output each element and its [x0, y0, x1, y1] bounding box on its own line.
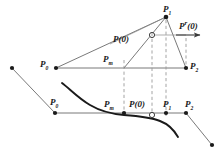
- label-upper-p1: P1: [163, 5, 171, 16]
- lower-point-pminus1: [10, 66, 14, 70]
- label-upper-p2: P2: [190, 62, 198, 73]
- label-upper-p-of-0: P(0): [113, 35, 129, 44]
- label-lower-p1: P1: [163, 100, 171, 111]
- label-upper-p-of-0-suffix: (0): [119, 34, 130, 44]
- label-tangent-suffix: (0): [187, 21, 198, 31]
- lower-point-p-of-0: [149, 112, 154, 117]
- lower-point-p1: [164, 111, 168, 115]
- label-lower-pm: Pm: [104, 100, 114, 111]
- upper-point-p0: [54, 66, 58, 70]
- lower-point-p0: [53, 111, 57, 115]
- label-upper-p0: P0: [40, 60, 48, 71]
- label-upper-p0-sub: 0: [46, 65, 49, 71]
- lower-point-p2: [184, 111, 188, 115]
- spline-curve: [62, 83, 178, 137]
- lower-point-p3: [210, 143, 214, 147]
- label-lower-p2: P2: [185, 100, 193, 111]
- lower-edge-p2-p3: [186, 113, 212, 145]
- label-lower-pm-sub: m: [110, 105, 114, 111]
- label-lower-p2-sub: 2: [191, 105, 194, 111]
- label-lower-p0-sub: 0: [56, 103, 59, 109]
- label-lower-p-of-0: P(0): [129, 100, 145, 109]
- label-upper-p1-sub: 1: [169, 10, 172, 16]
- label-lower-p-of-0-suffix: (0): [135, 99, 146, 109]
- upper-point-p2: [184, 66, 188, 70]
- upper-edge-pm-p1: [124, 17, 166, 68]
- label-upper-pm-sub: m: [109, 60, 113, 66]
- label-lower-p1-sub: 1: [169, 105, 172, 111]
- label-upper-p2-sub: 2: [196, 67, 199, 73]
- label-tangent-vector: Pr(0): [179, 20, 198, 31]
- lower-edge-pminus1-p0: [12, 68, 55, 113]
- label-upper-pm: Pm: [103, 55, 113, 66]
- label-lower-p0: P0: [50, 98, 58, 109]
- figure-container: P0 P1 P2 Pm P(0) Pr(0) P0 Pm P(0) P1 P2: [0, 0, 219, 152]
- lower-point-pm: [122, 111, 126, 115]
